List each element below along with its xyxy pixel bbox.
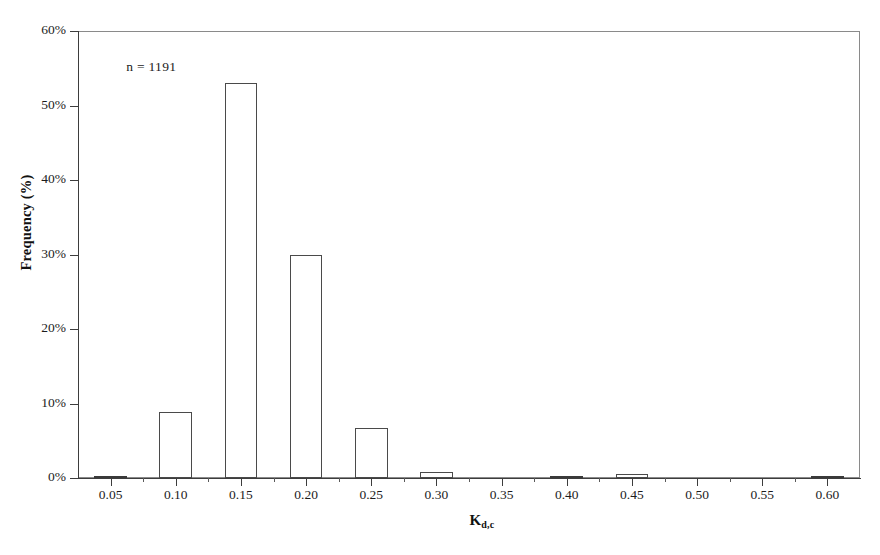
x-axis-tick-label: 0.60 bbox=[797, 487, 857, 503]
x-axis-tick-label: 0.45 bbox=[602, 487, 662, 503]
x-axis-minor-tick bbox=[599, 478, 600, 482]
x-axis-tick bbox=[371, 478, 372, 486]
x-axis-tick-label: 0.55 bbox=[732, 487, 792, 503]
y-axis-title: Frequency (%) bbox=[18, 123, 35, 323]
x-axis-minor-tick bbox=[665, 478, 666, 482]
x-axis-tick bbox=[111, 478, 112, 486]
y-axis-line bbox=[78, 31, 79, 479]
x-axis-title-main: K bbox=[469, 512, 481, 528]
x-axis-tick bbox=[827, 478, 828, 486]
x-axis-minor-tick bbox=[534, 478, 535, 482]
y-axis-tick-label: 50% bbox=[0, 97, 66, 113]
x-axis-minor-tick bbox=[274, 478, 275, 482]
histogram-bar bbox=[811, 476, 844, 478]
x-axis-tick bbox=[697, 478, 698, 486]
x-axis-title: Kd,c bbox=[422, 512, 542, 529]
y-axis-tick-label: 10% bbox=[0, 395, 66, 411]
histogram-bar bbox=[225, 83, 258, 478]
x-axis-tick-label: 0.20 bbox=[276, 487, 336, 503]
y-axis-tick bbox=[70, 255, 78, 256]
x-axis-minor-tick bbox=[469, 478, 470, 482]
histogram-bar bbox=[355, 428, 388, 478]
x-axis-tick bbox=[176, 478, 177, 486]
histogram-bar bbox=[94, 476, 127, 478]
x-axis-title-subscript: d,c bbox=[481, 519, 494, 530]
y-axis-tick-label: 0% bbox=[0, 469, 66, 485]
x-axis-tick bbox=[632, 478, 633, 486]
y-axis-tick bbox=[70, 478, 78, 479]
y-axis-tick-label: 60% bbox=[0, 22, 66, 38]
x-axis-tick bbox=[567, 478, 568, 486]
y-axis-tick bbox=[70, 31, 78, 32]
y-axis-tick bbox=[70, 404, 78, 405]
x-axis-tick bbox=[241, 478, 242, 486]
histogram-bar bbox=[550, 476, 583, 478]
x-axis-minor-tick bbox=[208, 478, 209, 482]
x-axis-minor-tick bbox=[339, 478, 340, 482]
histogram-bar bbox=[420, 472, 453, 478]
x-axis-tick-label: 0.25 bbox=[341, 487, 401, 503]
x-axis-minor-tick bbox=[143, 478, 144, 482]
x-axis-tick bbox=[306, 478, 307, 486]
sample-size-annotation: n = 1191 bbox=[126, 59, 176, 75]
x-axis-tick-label: 0.50 bbox=[667, 487, 727, 503]
x-axis-minor-tick bbox=[404, 478, 405, 482]
x-axis-tick bbox=[502, 478, 503, 486]
plot-area-frame bbox=[78, 31, 860, 478]
histogram-figure: 0%10%20%30%40%50%60% Frequency (%) 0.050… bbox=[0, 0, 880, 555]
x-axis-minor-tick bbox=[795, 478, 796, 482]
x-axis-tick-label: 0.40 bbox=[537, 487, 597, 503]
y-axis-tick bbox=[70, 180, 78, 181]
x-axis-tick-label: 0.10 bbox=[146, 487, 206, 503]
histogram-bar bbox=[290, 255, 323, 479]
y-axis-tick bbox=[70, 329, 78, 330]
x-axis-tick bbox=[436, 478, 437, 486]
y-axis-tick bbox=[70, 106, 78, 107]
x-axis-tick-label: 0.30 bbox=[406, 487, 466, 503]
x-axis-tick-label: 0.35 bbox=[472, 487, 532, 503]
histogram-bar bbox=[159, 412, 192, 478]
x-axis-minor-tick bbox=[730, 478, 731, 482]
x-axis-tick-label: 0.05 bbox=[81, 487, 141, 503]
x-axis-tick-label: 0.15 bbox=[211, 487, 271, 503]
histogram-bar bbox=[616, 474, 649, 478]
x-axis-tick bbox=[762, 478, 763, 486]
